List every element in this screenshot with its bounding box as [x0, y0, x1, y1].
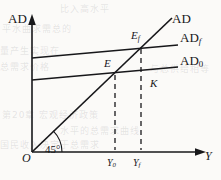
y-axis — [28, 14, 36, 152]
xtick-y0-sub: 0 — [113, 161, 116, 168]
origin-label: O — [22, 152, 31, 164]
ad-f-label: ADf — [180, 31, 201, 46]
point-k-label: K — [150, 78, 157, 89]
point-ef-base: E — [131, 29, 138, 41]
y-axis-label: AD — [8, 12, 27, 25]
ad-0-label-base: AD — [180, 53, 199, 68]
point-ef-label: Ef — [131, 30, 140, 42]
chart-canvas — [0, 0, 221, 180]
ad-f-label-sub: f — [199, 36, 201, 46]
point-ef-sub: f — [138, 34, 140, 43]
xtick-y0-label: Y0 — [107, 158, 116, 169]
point-e-label: E — [104, 58, 111, 69]
angle-45-label: 45° — [45, 144, 60, 155]
ad-0-label-sub: 0 — [199, 59, 203, 69]
xtick-yf-sub: f — [139, 161, 141, 168]
keynesian-cross-figure: 比入高水平 平水曲求需总的 量产生实现在 总需求价格 与总供给相等 第20章 宏… — [0, 0, 221, 180]
ad-f-label-base: AD — [180, 30, 199, 45]
ad-0-label: AD0 — [180, 54, 203, 69]
x-axis-label: Y — [205, 150, 212, 162]
ad-45-label: AD — [172, 12, 191, 25]
xtick-yf-label: Yf — [133, 158, 140, 169]
